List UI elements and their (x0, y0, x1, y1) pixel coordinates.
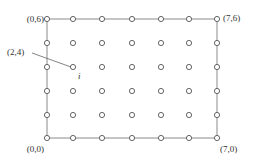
grid-point (158, 88, 163, 93)
grid-point (214, 16, 219, 21)
grid-border (47, 19, 217, 138)
point-label-i: i (78, 71, 81, 81)
grid-point (129, 135, 134, 140)
grid-point (129, 112, 134, 117)
grid-point (70, 135, 75, 140)
grid-point (158, 112, 163, 117)
grid-point (99, 88, 104, 93)
grid-point (214, 40, 219, 45)
grid-point (70, 16, 75, 21)
grid-point (186, 135, 191, 140)
grid-point (44, 135, 49, 140)
grid-point (158, 16, 163, 21)
grid-point (129, 16, 134, 21)
grid-point (70, 88, 75, 93)
grid-point (158, 40, 163, 45)
grid-point (44, 112, 49, 117)
grid-points (44, 16, 219, 140)
grid-point (44, 16, 49, 21)
grid-frame (47, 19, 217, 138)
callout-label: (2,4) (7, 47, 24, 57)
leader-line (32, 53, 71, 67)
grid-point (186, 64, 191, 69)
grid-point (186, 88, 191, 93)
grid-point (214, 135, 219, 140)
grid-point (99, 135, 104, 140)
grid-point (99, 64, 104, 69)
corner-label-bottom-right: (7,0) (220, 144, 237, 154)
grid-point (186, 40, 191, 45)
grid-point (129, 88, 134, 93)
grid-point (158, 135, 163, 140)
grid-point (99, 16, 104, 21)
corner-label-top-right: (7,6) (223, 13, 240, 23)
grid-point (44, 40, 49, 45)
grid-point (70, 40, 75, 45)
grid-point (70, 112, 75, 117)
grid-svg: (0,6)(7,6)(0,0)(7,0)(2,4)i (0, 0, 256, 164)
grid-point (158, 64, 163, 69)
grid-point (99, 40, 104, 45)
grid-point (186, 112, 191, 117)
grid-point (186, 16, 191, 21)
grid-point (129, 64, 134, 69)
grid-point (214, 64, 219, 69)
grid-diagram: (0,6)(7,6)(0,0)(7,0)(2,4)i (0, 0, 256, 164)
grid-point (44, 88, 49, 93)
grid-point (214, 112, 219, 117)
callout-leader-line (32, 53, 71, 67)
corner-label-top-left: (0,6) (27, 14, 44, 24)
grid-point (99, 112, 104, 117)
grid-point (129, 40, 134, 45)
grid-point (44, 64, 49, 69)
grid-point (214, 88, 219, 93)
grid-point (70, 64, 75, 69)
coordinate-labels: (0,6)(7,6)(0,0)(7,0)(2,4)i (7, 13, 240, 154)
corner-label-bottom-left: (0,0) (27, 144, 44, 154)
